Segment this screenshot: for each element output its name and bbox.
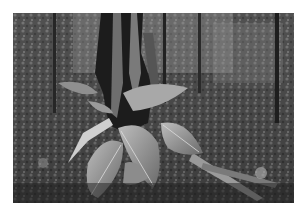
forest-photograph bbox=[13, 13, 294, 203]
forest-scene bbox=[13, 13, 294, 203]
